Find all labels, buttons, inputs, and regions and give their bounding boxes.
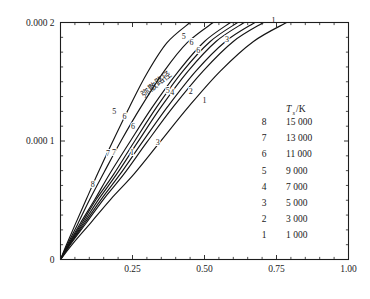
curve-label: 5 (182, 32, 186, 41)
legend-row-key: 6 (262, 149, 267, 159)
curve-label: 6 (122, 112, 126, 121)
curve-label: 7 (112, 148, 116, 157)
legend-row-key: 2 (262, 214, 267, 224)
curve-label: 6 (131, 122, 135, 131)
series-curve-4 (61, 23, 245, 260)
y-tick-label: 0 (50, 255, 55, 265)
y-tick-label: 0.000 1 (26, 136, 55, 146)
legend-row-value: 3 000 (286, 214, 308, 224)
x-tick-label: 0.75 (268, 264, 285, 274)
legend-row-value: 13 000 (286, 133, 312, 143)
chart-plot: 8877775555666666665544333322111111 0.250… (0, 0, 370, 299)
legend-row: 815 000 (262, 117, 313, 127)
curves-layer (61, 23, 287, 260)
curve-label: 5 (166, 86, 170, 95)
legend-header: Ts/K (286, 104, 306, 116)
curve-label: 6 (190, 38, 194, 47)
y-tick-label: 0.000 2 (26, 18, 55, 28)
legend-row-key: 1 (262, 230, 267, 240)
curve-label: 8 (91, 180, 95, 189)
legend-row-value: 5 000 (286, 198, 308, 208)
legend-row: 713 000 (262, 133, 313, 143)
curve-label: 2 (189, 87, 193, 96)
curve-label: 1 (203, 96, 207, 105)
legend-row-value: 9 000 (286, 166, 308, 176)
legend-row-value: 11 000 (286, 149, 312, 159)
legend-row-value: 1 000 (286, 230, 308, 240)
x-tick-label: 0.25 (124, 264, 141, 274)
legend-row: 35 000 (262, 198, 308, 208)
curve-label: 5 (112, 107, 116, 116)
x-tick-label: 0.50 (196, 264, 213, 274)
series-curve-5 (61, 23, 238, 260)
legend-row-value: 15 000 (286, 117, 312, 127)
curve-labels-layer: 8877775555666666665544333322111111 (91, 16, 276, 189)
curve-label: 3 (225, 35, 229, 44)
legend-row-key: 8 (262, 117, 267, 127)
legend-row-key: 4 (262, 182, 267, 192)
legend-header-unit: /K (296, 104, 306, 114)
x-tick-label: 1.00 (340, 264, 357, 274)
legend-layer: Ts/K815 000713 000611 00059 00047 00035 … (262, 104, 313, 240)
curve-label: 3 (156, 138, 160, 147)
legend-row: 611 000 (262, 149, 312, 159)
curve-label: 1 (130, 148, 134, 157)
legend-row: 11 000 (262, 230, 308, 240)
curve-label: 6 (196, 46, 200, 55)
legend-row: 23 000 (262, 214, 308, 224)
legend-row-key: 5 (262, 166, 267, 176)
legend-header-var: T (286, 104, 292, 114)
legend-row: 59 000 (262, 166, 308, 176)
curve-label: 1 (272, 16, 276, 25)
curve-label: 7 (106, 149, 110, 158)
legend-row-key: 3 (262, 198, 267, 208)
figure-container: 8877775555666666665544333322111111 0.250… (0, 0, 370, 299)
legend-row: 47 000 (262, 182, 308, 192)
legend-row-value: 7 000 (286, 182, 308, 192)
curve-label: 4 (170, 88, 174, 97)
legend-row-key: 7 (262, 133, 267, 143)
